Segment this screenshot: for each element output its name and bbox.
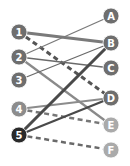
node-4: 4: [11, 101, 27, 117]
node-label: 5: [16, 130, 23, 141]
edge-2-A: [19, 16, 111, 57]
node-label: 1: [16, 27, 23, 38]
node-label: 4: [16, 104, 23, 115]
node-label: E: [108, 120, 115, 131]
graph-canvas: 12345ABCDEF: [0, 0, 130, 166]
node-label: D: [107, 93, 115, 104]
edge-5-F: [19, 135, 111, 150]
node-F: F: [103, 142, 119, 158]
node-label: C: [107, 63, 114, 74]
node-layer: 12345ABCDEF: [11, 8, 119, 158]
node-B: B: [103, 35, 119, 51]
node-2: 2: [11, 49, 27, 65]
bipartite-diagram: 12345ABCDEF: [0, 0, 130, 166]
node-label: F: [108, 145, 115, 156]
node-A: A: [103, 8, 119, 24]
node-label: B: [107, 38, 115, 49]
node-3: 3: [11, 72, 27, 88]
node-label: 3: [16, 75, 23, 86]
node-1: 1: [11, 24, 27, 40]
node-D: D: [103, 90, 119, 106]
edge-layer: [19, 16, 111, 150]
edge-3-B: [19, 43, 111, 80]
node-label: A: [107, 11, 115, 22]
node-E: E: [103, 117, 119, 133]
edge-1-B: [19, 32, 111, 43]
node-label: 2: [16, 52, 23, 63]
node-5: 5: [11, 127, 27, 143]
node-C: C: [103, 60, 119, 76]
